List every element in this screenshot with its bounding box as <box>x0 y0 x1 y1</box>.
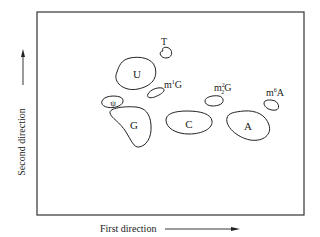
spot-label: ψ <box>110 98 116 108</box>
spot-U: U <box>116 57 156 89</box>
x-axis: First direction <box>100 223 240 234</box>
spot-label: U <box>133 68 141 80</box>
spot-label: A <box>244 120 252 132</box>
spot-m6A: m6A <box>264 87 285 110</box>
spot-label: m22G <box>214 82 232 95</box>
y-axis: Second direction <box>16 49 27 176</box>
x-arrowhead-icon <box>231 227 240 231</box>
spot-G: G <box>110 107 151 147</box>
chromatogram-diagram: T U m1G ψ G C m22G A m6A Second di <box>0 0 320 237</box>
spot-label: m6A <box>266 87 285 98</box>
spot-label: m1G <box>164 79 182 90</box>
spot-C: C <box>166 111 212 134</box>
spot-m22G: m22G <box>205 82 232 106</box>
spot-A: A <box>227 111 270 140</box>
spot-label: T <box>161 36 167 47</box>
y-axis-label: Second direction <box>16 108 27 175</box>
y-arrowhead-icon <box>21 49 25 57</box>
spot-label: C <box>185 118 192 130</box>
spot-psi: ψ <box>102 96 123 108</box>
x-axis-label: First direction <box>100 223 156 234</box>
spot-T: T <box>160 36 171 58</box>
spot-label: G <box>130 119 138 131</box>
